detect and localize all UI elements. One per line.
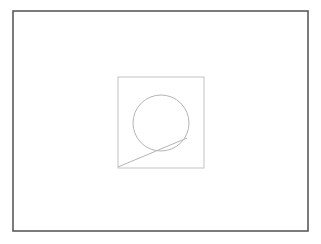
- figure-svg: [0, 0, 321, 244]
- drawing-canvas: [0, 0, 321, 244]
- canvas-background: [0, 0, 321, 244]
